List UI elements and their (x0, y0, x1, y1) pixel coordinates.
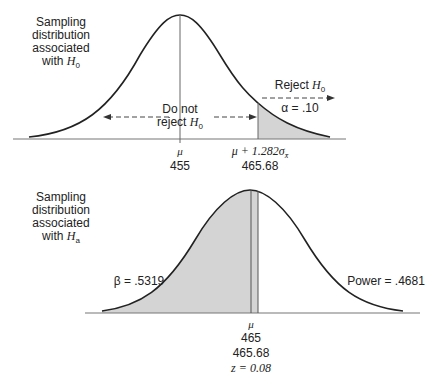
h0-mu-symbol: μ (170, 145, 190, 158)
power-label: Power = .4681 (345, 275, 427, 288)
reject-label: Reject H0 (270, 79, 330, 96)
reject-word: Reject (275, 78, 312, 92)
critical-sub: x̄ (285, 151, 289, 160)
critical-expr: μ + 1.282σ (232, 144, 285, 158)
beta-label: β = .5319 (110, 275, 168, 288)
ha-critical-value: 465.68 (226, 347, 276, 360)
h0-mu-value: 455 (165, 160, 195, 173)
title-with: with (42, 54, 67, 68)
z-label: z = 0.08 (221, 362, 281, 375)
beta-region (102, 190, 258, 313)
reject-word: reject (157, 115, 190, 129)
do-not-reject-label: Do not reject H0 (150, 103, 210, 133)
title-line: with Ha (22, 230, 100, 247)
do-not-line2: reject H0 (150, 116, 210, 133)
title-line: with H0 (22, 55, 100, 72)
arrowhead-left (103, 114, 111, 120)
hyp-sub: 0 (321, 85, 325, 94)
alpha-label: α = .10 (270, 102, 330, 115)
hyp-sub: 0 (198, 122, 202, 131)
hyp-sub: a (75, 236, 79, 245)
ha-title: Sampling distribution associated with Ha (22, 191, 100, 247)
hyp-symbol: H (312, 78, 321, 92)
title-with: with (42, 229, 67, 243)
ha-mu-symbol: μ (241, 318, 261, 331)
critical-value: 465.68 (235, 160, 285, 173)
ha-mu-value: 465 (236, 332, 266, 345)
h0-title: Sampling distribution associated with H0 (22, 16, 100, 72)
arrowhead-right (249, 114, 257, 120)
hyp-sub: 0 (75, 61, 79, 70)
